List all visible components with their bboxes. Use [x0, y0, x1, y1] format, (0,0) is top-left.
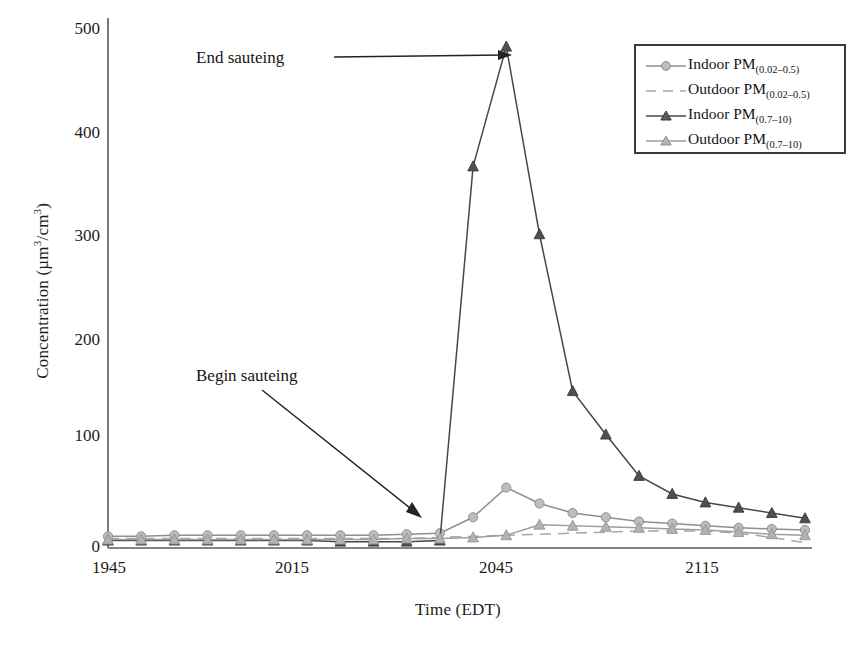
- legend-key-circle-icon: [644, 59, 688, 73]
- data-point: [667, 488, 678, 498]
- annotation-begin-sauteing: Begin sauteing: [196, 366, 298, 386]
- legend-item-indoor-fine: Indoor PM(0.02–0.5): [644, 53, 836, 78]
- legend-item-indoor-coarse: Indoor PM(0.7–10): [644, 103, 836, 128]
- legend-label-outdoor-coarse: Outdoor PM(0.7–10): [688, 131, 802, 151]
- chart-legend: Indoor PM(0.02–0.5) Outdoor PM(0.02–0.5)…: [634, 44, 846, 154]
- legend-item-outdoor-fine: Outdoor PM(0.02–0.5): [644, 78, 836, 103]
- legend-key-triangle-dark-icon: [644, 109, 688, 123]
- legend-label-indoor-coarse: Indoor PM(0.7–10): [688, 106, 791, 126]
- data-point: [502, 483, 511, 492]
- annotation-arrows: [262, 50, 512, 518]
- data-point: [567, 386, 578, 396]
- legend-item-outdoor-coarse: Outdoor PM(0.7–10): [644, 128, 836, 153]
- legend-label-indoor-fine: Indoor PM(0.02–0.5): [688, 56, 799, 76]
- legend-key-triangle-light-icon: [644, 134, 688, 148]
- data-point: [535, 499, 544, 508]
- annotation-end-sauteing: End sauteing: [196, 48, 284, 68]
- data-point: [501, 41, 512, 51]
- data-point: [534, 229, 545, 239]
- chart-figure: Concentration (µm3/cm3) Time (EDT) 500 4…: [0, 0, 864, 651]
- data-point: [568, 508, 577, 517]
- legend-label-outdoor-fine: Outdoor PM(0.02–0.5): [688, 81, 810, 101]
- legend-key-dashed-icon: [644, 84, 688, 98]
- data-point: [468, 513, 477, 522]
- data-point: [468, 161, 479, 171]
